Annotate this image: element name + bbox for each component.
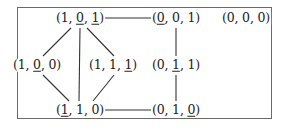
paren-close: )	[195, 102, 200, 117]
paren-close: )	[99, 10, 104, 25]
comma: ,	[26, 57, 34, 72]
coordinate: 1	[187, 10, 195, 25]
node-n000: (0, 0, 0)	[221, 12, 271, 25]
coordinate: 0	[48, 57, 56, 72]
edge-n101-n110	[79, 28, 80, 101]
comma: ,	[235, 10, 243, 25]
coordinate: 1	[91, 10, 99, 25]
edge-n101-n100	[43, 28, 71, 56]
node-n111: (1, 1, 1)	[88, 59, 138, 72]
coordinate: 1	[124, 57, 132, 72]
coordinate: 0	[172, 10, 180, 25]
node-n010: (0, 1, 0)	[151, 104, 201, 117]
comma: ,	[69, 102, 77, 117]
comma: ,	[165, 10, 173, 25]
coordinate: 1	[172, 57, 180, 72]
node-n101: (1, 0, 1)	[55, 12, 105, 25]
coordinate: 0	[91, 102, 99, 117]
coordinate: 0	[33, 57, 41, 72]
coordinate: 0	[257, 10, 265, 25]
node-n100: (1, 0, 0)	[12, 59, 62, 72]
coordinate: 1	[172, 102, 180, 117]
paren-close: )	[99, 102, 104, 117]
paren-close: )	[132, 57, 137, 72]
coordinate: 0	[187, 102, 195, 117]
paren-close: )	[195, 57, 200, 72]
coordinate: 0	[76, 10, 84, 25]
coordinate: 1	[109, 57, 117, 72]
comma: ,	[102, 57, 110, 72]
edge-n100-n110	[43, 75, 69, 101]
node-n001: (0, 0, 1)	[151, 12, 201, 25]
paren-close: )	[195, 10, 200, 25]
paren-close: )	[56, 57, 61, 72]
edge-n101-n111	[87, 28, 114, 56]
node-n110: (1, 1, 0)	[55, 104, 105, 117]
comma: ,	[165, 57, 173, 72]
coordinate: 0	[242, 10, 250, 25]
edge-n111-n110	[93, 75, 114, 101]
comma: ,	[69, 10, 77, 25]
coordinate: 1	[187, 57, 195, 72]
paren-close: )	[265, 10, 270, 25]
node-n011: (0, 1, 1)	[151, 59, 201, 72]
comma: ,	[165, 102, 173, 117]
coordinate: 1	[76, 102, 84, 117]
